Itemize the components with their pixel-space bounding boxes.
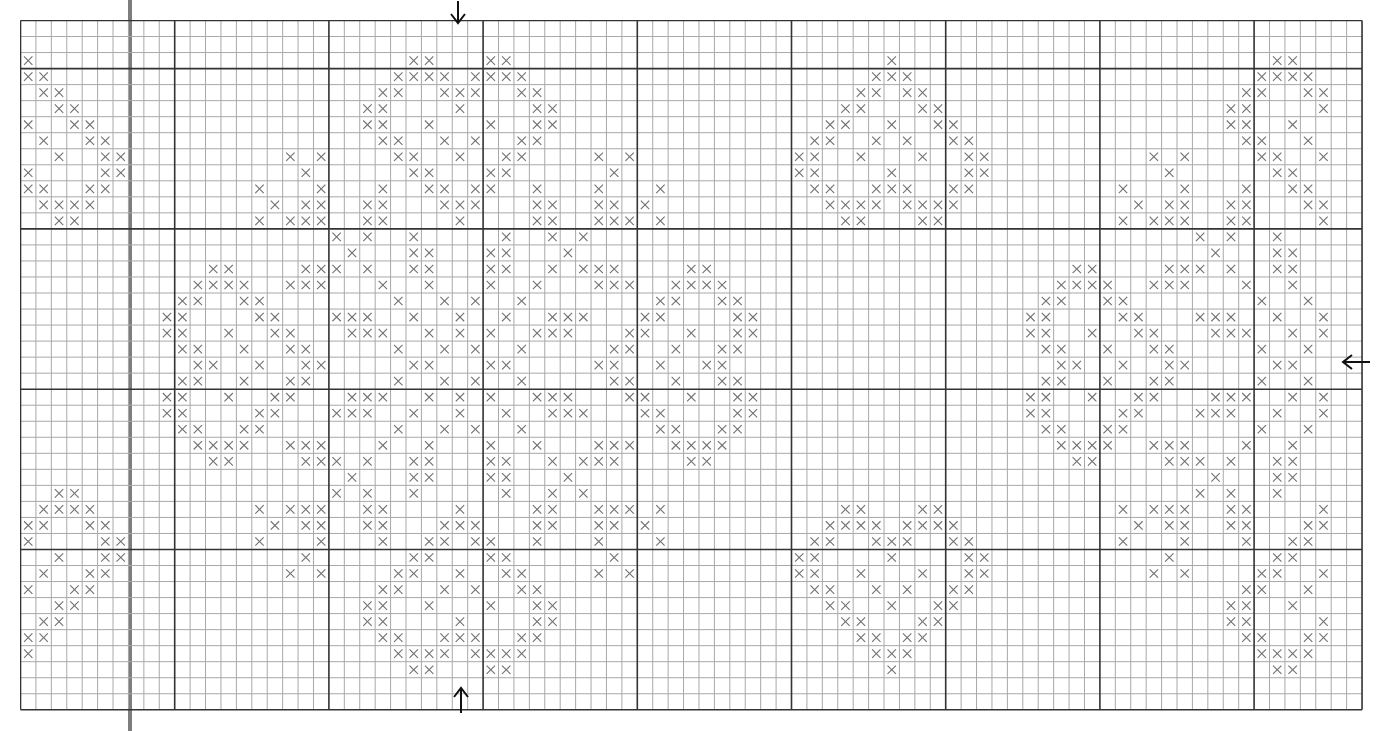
stitch-cross — [194, 377, 202, 385]
stitch-cross — [487, 393, 495, 401]
stitch-cross — [1181, 521, 1189, 529]
stitch-cross — [286, 329, 294, 337]
stitch-cross — [302, 345, 310, 353]
stitch-cross — [317, 441, 325, 449]
stitch-cross — [949, 521, 957, 529]
stitch-cross — [610, 201, 618, 209]
stitch-cross — [1319, 569, 1327, 577]
stitch-cross — [456, 153, 464, 161]
stitch-cross — [918, 153, 926, 161]
stitch-cross — [672, 377, 680, 385]
stitch-cross — [903, 649, 911, 657]
stitch-cross — [502, 56, 510, 64]
stitch-cross — [1242, 201, 1250, 209]
stitch-cross — [332, 457, 340, 465]
stitch-cross — [317, 281, 325, 289]
stitch-cross — [410, 153, 418, 161]
stitch-cross — [24, 649, 32, 657]
stitch-cross — [1242, 537, 1250, 545]
stitch-cross — [888, 537, 896, 545]
stitch-cross — [1119, 185, 1127, 193]
stitch-cross — [1088, 265, 1096, 273]
stitch-cross — [533, 281, 541, 289]
stitch-cross — [1150, 281, 1158, 289]
stitch-cross — [1273, 265, 1281, 273]
stitch-cross — [317, 505, 325, 513]
stitch-cross — [949, 537, 957, 545]
stitch-cross — [872, 137, 880, 145]
stitch-cross — [440, 377, 448, 385]
stitch-cross — [1242, 633, 1250, 641]
stitch-cross — [533, 104, 541, 112]
stitch-cross — [410, 473, 418, 481]
stitch-cross — [718, 281, 726, 289]
stitch-cross — [502, 649, 510, 657]
stitch-cross — [440, 297, 448, 305]
stitch-cross — [702, 361, 710, 369]
stitch-cross — [410, 72, 418, 80]
stitch-cross — [702, 441, 710, 449]
stitch-cross — [918, 88, 926, 96]
stitch-cross — [456, 313, 464, 321]
stitch-cross — [224, 329, 232, 337]
stitch-cross — [733, 313, 741, 321]
stitch-cross — [471, 201, 479, 209]
stitch-cross — [1227, 457, 1235, 465]
stitch-cross — [1288, 457, 1296, 465]
stitch-cross — [579, 409, 587, 417]
stitch-cross — [841, 601, 849, 609]
stitch-cross — [980, 553, 988, 561]
stitch-cross — [302, 553, 310, 561]
stitch-cross — [965, 585, 973, 593]
stitch-cross — [255, 409, 263, 417]
stitch-cross — [1242, 137, 1250, 145]
stitch-cross — [348, 393, 356, 401]
stitch-cross — [317, 521, 325, 529]
stitch-cross — [55, 201, 63, 209]
stitch-cross — [687, 393, 695, 401]
stitch-cross — [101, 569, 109, 577]
stitch-cross — [1057, 297, 1065, 305]
stitch-cross — [656, 537, 664, 545]
stitch-cross — [425, 281, 433, 289]
stitch-cross — [394, 88, 402, 96]
stitch-cross — [517, 72, 525, 80]
stitch-cross — [410, 457, 418, 465]
stitch-cross — [610, 169, 618, 177]
stitch-cross — [178, 425, 186, 433]
stitch-cross — [1227, 120, 1235, 128]
stitch-cross — [1134, 329, 1142, 337]
stitch-cross — [456, 88, 464, 96]
stitch-cross — [1258, 72, 1266, 80]
stitch-cross — [1103, 441, 1111, 449]
stitch-cross — [471, 297, 479, 305]
stitch-cross — [425, 393, 433, 401]
stitch-cross — [1273, 72, 1281, 80]
stitch-cross — [502, 313, 510, 321]
stitch-cross — [456, 217, 464, 225]
stitch-cross — [1196, 233, 1204, 241]
stitch-cross — [610, 281, 618, 289]
stitch-cross — [1319, 409, 1327, 417]
stitch-cross — [687, 281, 695, 289]
stitch-cross — [86, 137, 94, 145]
stitch-cross — [687, 457, 695, 465]
stitch-cross — [255, 537, 263, 545]
stitch-cross — [610, 265, 618, 273]
stitch-cross — [1181, 457, 1189, 465]
stitch-cross — [410, 409, 418, 417]
stitch-cross — [163, 393, 171, 401]
stitch-cross — [55, 153, 63, 161]
stitch-cross — [1103, 377, 1111, 385]
stitch-cross — [178, 329, 186, 337]
stitch-cross — [733, 425, 741, 433]
stitch-cross — [687, 441, 695, 449]
stitch-cross — [317, 457, 325, 465]
stitch-cross — [1319, 88, 1327, 96]
stitch-cross — [1319, 104, 1327, 112]
stitch-cross — [471, 377, 479, 385]
stitch-cross — [795, 153, 803, 161]
stitch-cross — [903, 537, 911, 545]
stitch-cross — [1119, 313, 1127, 321]
stitch-cross — [533, 137, 541, 145]
